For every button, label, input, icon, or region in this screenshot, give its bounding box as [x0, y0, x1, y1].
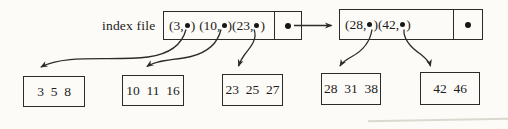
index-file-label: index file	[102, 18, 155, 34]
record-pointer-dot	[367, 22, 372, 27]
data-block-values: 42 46	[433, 81, 467, 97]
index-block-2-entries: (28,) (42,)	[340, 10, 454, 39]
index-entry: (3,)	[169, 18, 195, 34]
index-block-1: (3,) (10,) (23,)	[163, 11, 302, 40]
index-entry: (23,)	[232, 18, 265, 34]
index-entry-close: )	[260, 18, 265, 33]
index-entry-open: (3,	[169, 18, 184, 33]
index-block-2: (28,) (42,)	[339, 9, 483, 40]
index-entry-open: (42,	[378, 17, 399, 32]
next-block-pointer-cell	[454, 10, 482, 39]
next-block-pointer-dot	[285, 23, 291, 29]
data-block-2: 10 11 16	[122, 75, 184, 106]
index-entry-open: (23,	[232, 18, 253, 33]
data-block-5: 42 46	[420, 72, 480, 105]
index-entry: (28,)	[345, 17, 378, 33]
index-file-diagram: index file (3,) (10,) (23,) (28,) (42,) …	[0, 0, 508, 129]
next-block-pointer-cell	[275, 12, 301, 39]
data-block-3: 23 25 27	[222, 74, 283, 106]
data-block-4: 28 31 38	[321, 73, 381, 105]
record-pointer-dot	[254, 23, 259, 28]
next-block-pointer-dot	[465, 22, 471, 28]
data-block-values: 23 25 27	[226, 82, 280, 98]
index-entry-open: (10,	[199, 18, 220, 33]
record-pointer-dot	[185, 23, 190, 28]
index-entry-close: )	[406, 17, 411, 32]
data-block-values: 10 11 16	[126, 83, 180, 99]
index-entry: (42,)	[378, 17, 411, 33]
record-pointer-dot	[222, 23, 227, 28]
index-entry: (10,)	[199, 18, 232, 34]
index-entry-close: )	[191, 18, 196, 33]
data-block-1: 3 5 8	[23, 76, 85, 107]
data-block-values: 3 5 8	[37, 84, 71, 100]
index-entry-open: (28,	[345, 17, 366, 32]
index-block-1-entries: (3,) (10,) (23,)	[164, 12, 275, 39]
record-pointer-dot	[400, 22, 405, 27]
data-block-values: 28 31 38	[324, 81, 378, 97]
scan-artifact-line	[368, 118, 508, 122]
